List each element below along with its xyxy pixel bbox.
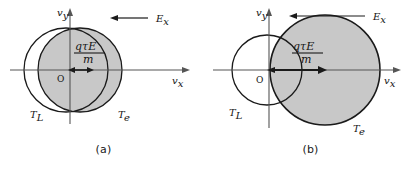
v-y-axis-label: vy: [256, 7, 268, 21]
panel-a-caption: (a): [0, 143, 207, 156]
field-label: Ex: [155, 13, 169, 27]
field-subscript: x: [163, 16, 169, 27]
panel-b-diagram: vy vx Ex qτE m O TL Te: [207, 0, 414, 143]
field-arrow-head: [110, 15, 118, 21]
lattice-temperature-subscript: L: [36, 112, 44, 123]
panel-b: vy vx Ex qτE m O TL Te (b): [207, 0, 414, 177]
drift-numerator: qτE: [75, 40, 96, 53]
v-y-axis-label: vy: [57, 7, 69, 21]
field-subscript: x: [380, 14, 386, 25]
lattice-temperature-label: TL: [229, 107, 243, 121]
electron-temperature-label: Te: [118, 109, 130, 123]
v-x-axis-subscript: x: [178, 78, 184, 89]
lattice-temperature-label: TL: [30, 109, 44, 123]
v-y-axis-subscript: y: [62, 10, 69, 21]
v-x-axis-arrowhead: [393, 67, 401, 73]
field-arrow-head: [289, 13, 297, 19]
v-x-axis-arrowhead: [182, 67, 190, 73]
origin-label: O: [256, 75, 263, 85]
figure-root: vy vx Ex qτE m O TL Te (a): [0, 0, 414, 177]
drift-numerator: qτE: [293, 40, 314, 53]
origin-label: O: [57, 74, 64, 84]
v-x-axis-label: vx: [384, 75, 396, 89]
drift-denominator: m: [83, 53, 93, 66]
v-x-axis-subscript: x: [390, 78, 396, 89]
electron-temperature-subscript: e: [359, 126, 365, 137]
electron-temperature-subscript: e: [124, 112, 130, 123]
drift-denominator: m: [301, 53, 311, 66]
v-x-axis-label: vx: [172, 75, 184, 89]
panel-a-diagram: vy vx Ex qτE m O TL Te: [0, 0, 207, 143]
v-y-axis-subscript: y: [261, 10, 268, 21]
electron-temperature-label: Te: [353, 123, 365, 137]
lattice-temperature-subscript: L: [235, 110, 243, 121]
panel-a: vy vx Ex qτE m O TL Te (a): [0, 0, 207, 177]
panel-b-caption: (b): [207, 143, 414, 156]
field-label: Ex: [372, 11, 386, 25]
